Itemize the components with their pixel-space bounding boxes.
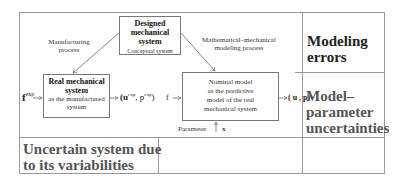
real-subtitle-2: system	[44, 103, 109, 111]
modeling-errors-label: Modeling errors	[307, 33, 368, 65]
parameter-x: x	[222, 125, 226, 133]
designed-system-box: Designed mechanical system Conceptual sy…	[119, 16, 181, 55]
model-param-line-1: Model–	[306, 88, 389, 104]
manufacturing-line-2: process	[44, 46, 94, 54]
f-exp-sup: exp	[26, 91, 35, 97]
uncertain-line-2: to its variabilities	[23, 157, 161, 173]
modeling-errors-line-2: errors	[307, 49, 368, 65]
math-line-2: modeling process	[194, 44, 284, 52]
output-exp-p: , p	[135, 92, 144, 102]
output-exp-end: )	[151, 92, 154, 102]
f-input: f	[166, 93, 169, 102]
output-exp-u: (u	[120, 92, 128, 102]
manufacturing-label: Manufacturing process	[44, 38, 94, 54]
f-exp-input: fexp	[22, 91, 34, 103]
nominal-line-4: mechanical system	[183, 105, 278, 114]
manufacturing-line-1: Manufacturing	[44, 38, 94, 46]
real-subtitle-1: as the manufactured	[44, 95, 109, 103]
modeling-errors-line-1: Modeling	[307, 33, 368, 49]
model-parameter-uncertainties-label: Model– parameter uncertainties	[306, 88, 389, 136]
designed-title-2: mechanical	[120, 28, 180, 37]
math-modeling-label: Mathematical–mechanical modeling process	[194, 36, 284, 52]
math-line-1: Mathematical–mechanical	[194, 36, 284, 44]
nominal-model-box: Nominal model as the predictive model of…	[182, 72, 279, 121]
nominal-line-2: as the predictive	[183, 87, 278, 96]
uncertain-system-label: Uncertain system due to its variabilitie…	[23, 141, 161, 173]
nominal-line-1: Nominal model	[183, 78, 278, 87]
real-title-1: Real mechanical	[44, 77, 109, 86]
real-title-2: system	[44, 86, 109, 95]
experimental-output: (uexp, pexp)	[120, 92, 154, 102]
designed-title-1: Designed	[120, 19, 180, 28]
real-system-box: Real mechanical system as the manufactur…	[43, 74, 110, 118]
nominal-line-3: model of the real	[183, 96, 278, 105]
parameter-label: Parameter	[178, 125, 206, 133]
uncertain-line-1: Uncertain system due	[23, 141, 161, 157]
designed-title-3: system	[120, 37, 180, 46]
designed-subtitle: Conceptual system	[120, 47, 180, 55]
model-param-line-2: parameter	[306, 104, 389, 120]
model-param-line-3: uncertainties	[306, 120, 389, 136]
